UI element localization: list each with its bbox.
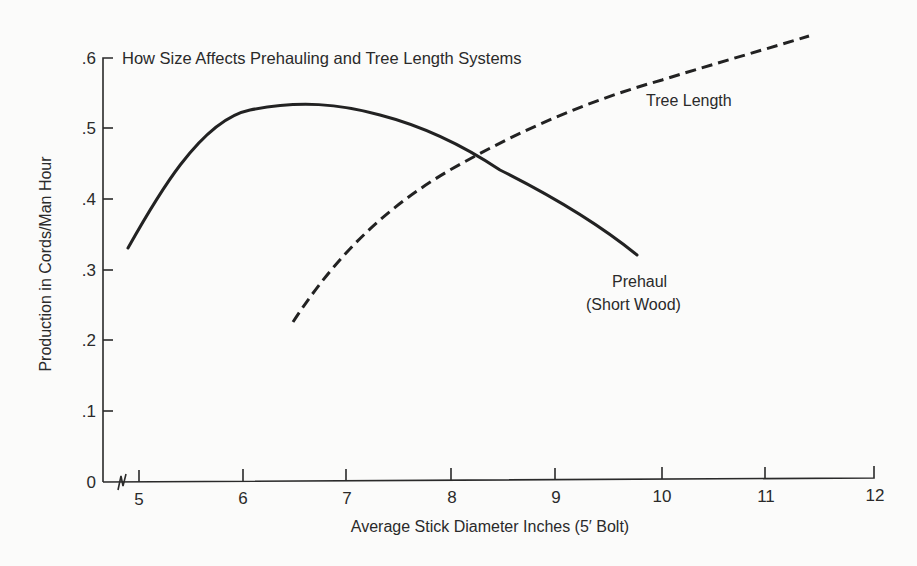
prehaul-sublabel: (Short Wood)	[586, 296, 681, 313]
prehaul-label: Prehaul	[612, 273, 667, 290]
y-axis-label: Production in Cords/Man Hour	[37, 156, 54, 372]
y-tick-4: .4	[82, 190, 96, 209]
x-tick-labels: 5 6 7 8 9 10 11 12	[134, 486, 884, 509]
y-tick-5: .5	[82, 119, 96, 138]
y-tick-0: 0	[87, 473, 96, 492]
x-tick-8: 8	[447, 488, 456, 507]
y-tick-6: .6	[82, 49, 96, 68]
tree-length-label: Tree Length	[646, 92, 732, 109]
x-tick-7: 7	[342, 489, 351, 508]
x-axis-label: Average Stick Diameter Inches (5′ Bolt)	[351, 518, 629, 535]
x-tick-12: 12	[866, 486, 885, 505]
x-tick-6: 6	[238, 489, 247, 508]
prehaul-series-line	[128, 104, 637, 255]
x-tick-5: 5	[134, 490, 143, 509]
axis-break-icon	[118, 474, 126, 490]
y-tick-3: .3	[82, 261, 96, 280]
tree-length-series-line	[293, 36, 809, 322]
x-tick-11: 11	[757, 487, 775, 506]
y-axis	[103, 58, 113, 482]
chart-title: How Size Affects Prehauling and Tree Len…	[122, 49, 522, 67]
y-tick-2: .2	[82, 331, 96, 350]
x-tick-9: 9	[551, 488, 560, 507]
x-axis	[103, 466, 874, 482]
chart: 0 .1 .2 .3 .4 .5 .6 5 6 7 8 9 10 11 12 H…	[0, 0, 917, 566]
y-tick-1: .1	[82, 402, 96, 421]
y-tick-labels: 0 .1 .2 .3 .4 .5 .6	[82, 49, 96, 492]
x-tick-10: 10	[653, 487, 672, 506]
